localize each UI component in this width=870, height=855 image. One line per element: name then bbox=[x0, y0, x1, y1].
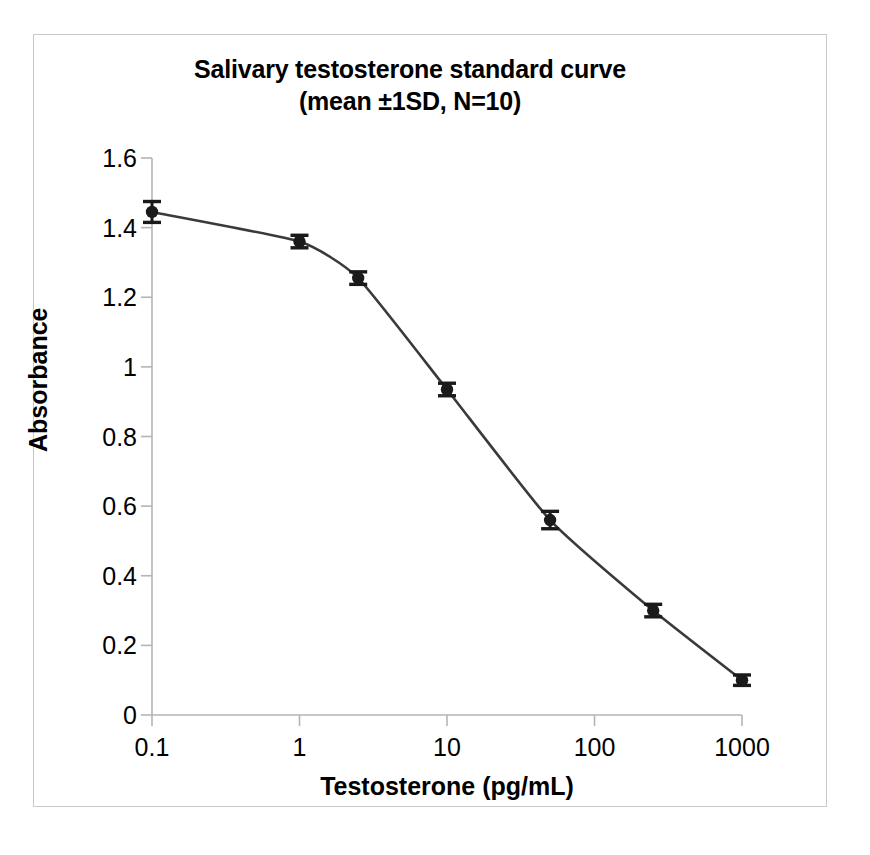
y-axis-tick-label: 1.6 bbox=[55, 144, 137, 173]
x-axis-tick-label: 1000 bbox=[714, 733, 770, 762]
y-axis-tick-label: 0.4 bbox=[55, 561, 137, 590]
data-markers bbox=[146, 206, 748, 687]
y-axis-ticks bbox=[141, 158, 152, 715]
data-point-marker bbox=[146, 206, 158, 218]
x-axis-tick-label: 100 bbox=[574, 733, 616, 762]
data-point-marker bbox=[647, 604, 659, 616]
error-bars bbox=[143, 202, 751, 686]
y-axis-tick-label: 1 bbox=[55, 352, 137, 381]
y-axis-tick-label: 0.8 bbox=[55, 422, 137, 451]
y-axis-tick-label: 0 bbox=[55, 701, 137, 730]
y-axis-title: Absorbance bbox=[24, 308, 53, 452]
x-axis-ticks bbox=[152, 715, 742, 726]
axes bbox=[152, 158, 742, 715]
data-point-marker bbox=[441, 383, 453, 395]
x-axis-tick-label: 0.1 bbox=[135, 733, 170, 762]
data-point-marker bbox=[352, 272, 364, 284]
chart-figure: Salivary testosterone standard curve (me… bbox=[0, 0, 870, 855]
x-axis-tick-label: 10 bbox=[433, 733, 461, 762]
y-axis-tick-label: 1.4 bbox=[55, 213, 137, 242]
data-point-marker bbox=[544, 514, 556, 526]
x-axis-tick-label: 1 bbox=[293, 733, 307, 762]
y-axis-tick-label: 0.6 bbox=[55, 492, 137, 521]
data-point-marker bbox=[293, 235, 305, 247]
x-axis-title: Testosterone (pg/mL) bbox=[152, 772, 742, 801]
y-axis-tick-label: 1.2 bbox=[55, 283, 137, 312]
y-axis-tick-label: 0.2 bbox=[55, 631, 137, 660]
data-point-marker bbox=[736, 674, 748, 686]
